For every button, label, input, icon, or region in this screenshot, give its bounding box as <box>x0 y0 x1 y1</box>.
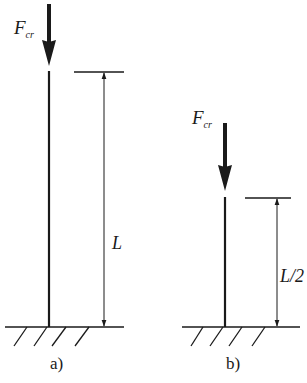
panel-caption: a) <box>50 354 63 373</box>
panel-caption: b) <box>226 354 240 373</box>
force-arrow-icon <box>218 123 232 191</box>
fixed-support-icon <box>5 327 124 346</box>
fixed-support-icon <box>182 327 300 346</box>
panel-a: Fcr L a) <box>5 4 124 373</box>
diagram-canvas: Fcr L a) Fcr <box>0 0 307 383</box>
force-label: Fcr <box>13 17 34 40</box>
force-arrow-icon <box>42 4 56 66</box>
panel-b: Fcr L/2 b) <box>182 107 304 373</box>
force-label: Fcr <box>191 107 212 130</box>
length-label: L/2 <box>279 266 304 286</box>
length-label: L <box>111 233 122 253</box>
